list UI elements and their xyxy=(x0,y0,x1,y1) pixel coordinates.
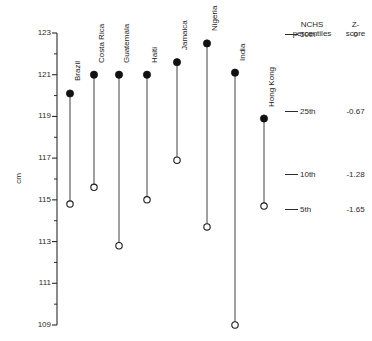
y-axis-tick-label: 111 xyxy=(17,279,51,287)
category-label-india: India xyxy=(238,43,247,60)
legend-dash-icon xyxy=(285,34,298,35)
legend-percentile-label: 50th xyxy=(300,30,338,40)
legend-row: 25th-0.67 xyxy=(283,107,372,117)
category-label-costa-rica: Costa Rica xyxy=(97,24,106,63)
y-axis-tick-label: 123 xyxy=(17,29,51,37)
legend-panel: NCHS percentiles Z- score 50th025th-0.67… xyxy=(283,0,372,260)
y-axis-title: cm xyxy=(14,169,23,189)
y-axis-tick-label: 119 xyxy=(17,112,51,120)
legend-row: 50th0 xyxy=(283,30,372,40)
category-label-nigeria: Nigeria xyxy=(210,6,219,31)
legend-percentile-label: 10th xyxy=(300,170,338,180)
legend-header-zscore-line1: Z- xyxy=(339,20,372,29)
legend-percentile-label: 5th xyxy=(300,205,338,215)
category-label-hong-kong: Hong Kong xyxy=(267,66,276,106)
y-axis-tick-label: 109 xyxy=(17,321,51,329)
category-label-guatemala: Guatemala xyxy=(122,24,131,63)
legend-percentile-label: 25th xyxy=(300,107,338,117)
y-axis-tick-label: 115 xyxy=(17,196,51,204)
category-label-jamaica: Jamaica xyxy=(180,20,189,50)
legend-dash-icon xyxy=(285,111,298,112)
category-label-haiti: Haiti xyxy=(150,47,159,63)
y-axis-tick-label: 121 xyxy=(17,71,51,79)
legend-header-percentiles-line1: NCHS xyxy=(283,20,341,29)
legend-zscore-value: -1.65 xyxy=(339,205,372,215)
y-axis-tick-label: 113 xyxy=(17,238,51,246)
legend-zscore-value: -0.67 xyxy=(339,107,372,117)
legend-zscore-value: 0 xyxy=(339,30,372,40)
legend-zscore-value: -1.28 xyxy=(339,170,372,180)
legend-row: 10th-1.28 xyxy=(283,170,372,180)
y-axis-tick-label: 117 xyxy=(17,154,51,162)
legend-row: 5th-1.65 xyxy=(283,205,372,215)
figure-container: cm 123121119117115113111109 BrazilCosta … xyxy=(0,0,372,341)
category-label-brazil: Brazil xyxy=(73,61,82,81)
legend-dash-icon xyxy=(285,209,298,210)
legend-dash-icon xyxy=(285,174,298,175)
